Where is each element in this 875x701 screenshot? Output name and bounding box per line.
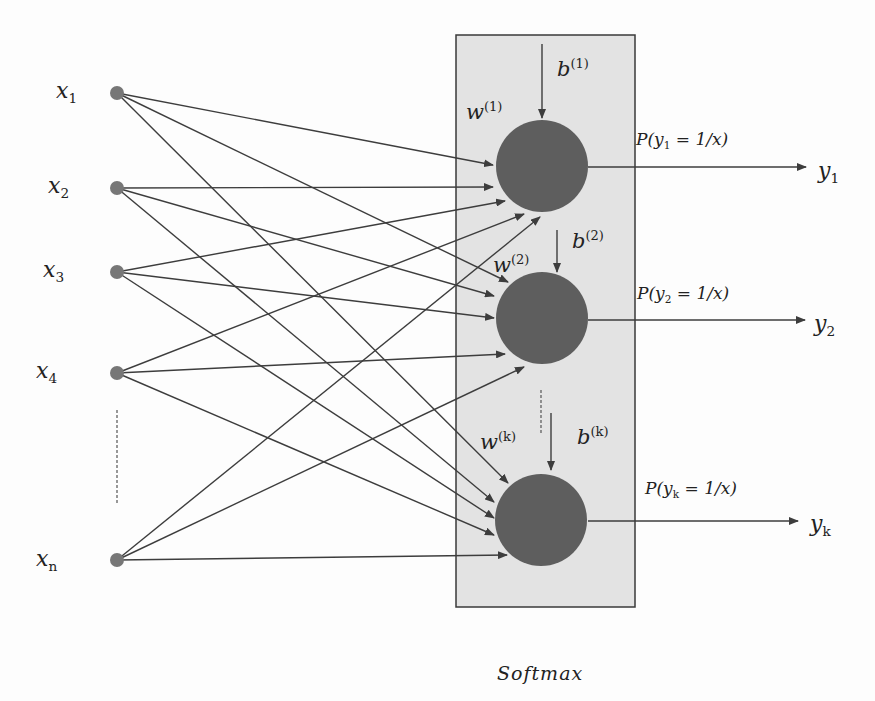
softmax-diagram: x1x2x3x4xnw(1)b(1)P(y1 = 1/x)y1w(2)b(2)P… xyxy=(0,0,875,701)
neuron-n1 xyxy=(496,120,588,212)
output-label-n2: y2 xyxy=(814,313,835,339)
input-node-xn xyxy=(110,553,124,567)
input-label-x3: x3 xyxy=(43,259,64,285)
output-label-n1: y1 xyxy=(818,160,839,186)
bias-label-n2: b(2) xyxy=(572,229,604,252)
probability-label-n1: P(y1 = 1/x) xyxy=(636,131,728,151)
input-label-x1: x1 xyxy=(56,80,77,106)
input-node-x4 xyxy=(110,366,124,380)
input-nodes xyxy=(110,86,124,567)
bias-label-nk: b(k) xyxy=(577,425,609,448)
edge-x2-n2 xyxy=(117,188,494,296)
bias-label-n1: b(1) xyxy=(557,57,589,80)
edge-x3-n2 xyxy=(117,272,494,318)
input-node-x1 xyxy=(110,86,124,100)
network-graph xyxy=(0,0,875,701)
edge-x2-nk xyxy=(117,188,494,502)
neuron-nk xyxy=(495,474,587,566)
output-label-nk: yk xyxy=(810,513,831,539)
edge-x2-n1 xyxy=(117,187,493,188)
neuron-n2 xyxy=(496,272,588,364)
edge-x3-nk xyxy=(117,272,494,518)
weight-label-nk: w(k) xyxy=(480,430,516,453)
edge-x1-nk xyxy=(117,93,508,483)
edge-x4-n2 xyxy=(117,354,505,373)
probability-label-nk: P(yk = 1/x) xyxy=(645,480,737,500)
input-label-x4: x4 xyxy=(36,360,57,386)
softmax-caption: Softmax xyxy=(497,664,583,683)
input-label-x2: x2 xyxy=(48,175,69,201)
softmax-neurons xyxy=(495,120,588,566)
probability-label-n2: P(y2 = 1/x) xyxy=(637,285,729,305)
input-node-x3 xyxy=(110,265,124,279)
input-label-xn: xn xyxy=(36,548,57,574)
weight-label-n1: w(1) xyxy=(466,100,502,123)
edge-x1-n1 xyxy=(117,93,493,165)
edge-xn-nk xyxy=(117,555,507,560)
weight-label-n2: w(2) xyxy=(493,253,529,276)
input-node-x2 xyxy=(110,181,124,195)
